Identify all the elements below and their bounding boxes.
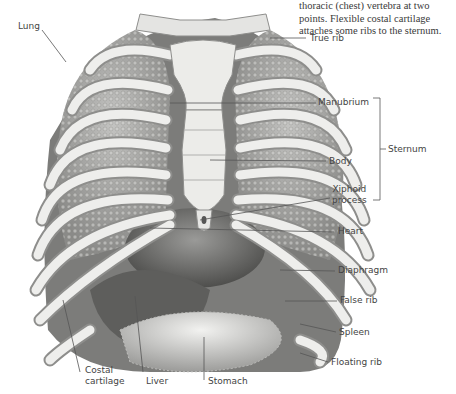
label-floating-rib: Floating rib	[331, 357, 382, 368]
label-xiphoid-process: Xiphoid process	[332, 184, 367, 206]
label-diaphragm: Diaphragm	[338, 265, 388, 276]
first-ribs	[136, 14, 270, 36]
label-sternum: Sternum	[388, 144, 427, 155]
label-body: Body	[329, 156, 352, 167]
label-lung: Lung	[18, 21, 40, 32]
label-spleen: Spleen	[339, 327, 370, 338]
label-manubrium: Manubrium	[318, 97, 369, 108]
label-stomach: Stomach	[208, 376, 248, 387]
label-costal-cartilage: Costal cartilage	[85, 365, 124, 387]
label-liver: Liver	[146, 376, 168, 387]
label-true-rib: True rib	[310, 33, 344, 44]
label-heart: Heart	[338, 226, 363, 237]
caption-line: thoracic (chest) vertebra at two	[299, 0, 456, 13]
label-false-rib: False rib	[340, 295, 377, 306]
caption-line: points. Flexible costal cartilage	[299, 13, 456, 26]
rib-cage-illustration	[0, 0, 456, 394]
caption-text: thoracic (chest) vertebra at two points.…	[299, 0, 456, 38]
rib-cage-diagram: thoracic (chest) vertebra at two points.…	[0, 0, 456, 394]
